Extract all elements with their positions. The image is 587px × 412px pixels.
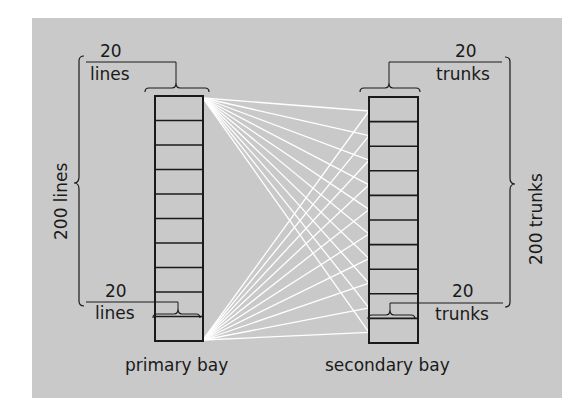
secondary-top-count: 20 [455, 41, 477, 61]
secondary-bay-label: secondary bay [325, 355, 450, 375]
secondary-top-unit: trunks [436, 64, 490, 84]
primary-top-count: 20 [100, 41, 122, 61]
primary-bottom-unit: lines [95, 303, 135, 323]
secondary-bottom-unit: trunks [435, 304, 489, 324]
primary-top-unit: lines [90, 64, 130, 84]
primary-bottom-count: 20 [105, 281, 127, 301]
primary-total-label: 200 lines [51, 162, 71, 240]
bay-interconnection-diagram: 20 lines 20 lines 200 lines primary bay … [0, 0, 587, 412]
primary-bay-label: primary bay [125, 355, 228, 375]
secondary-total-label: 200 trunks [526, 173, 546, 265]
secondary-bottom-count: 20 [452, 281, 474, 301]
